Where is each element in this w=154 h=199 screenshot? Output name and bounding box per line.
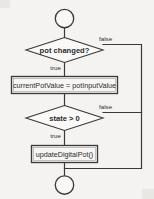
process-assign-pot-value-label: currentPotValue = potInputValue — [13, 81, 116, 90]
edge-label-pot-true: true — [50, 64, 61, 71]
flowchart-svg: pot changed? currentPotValue = potInputV… — [0, 0, 154, 199]
decision-pot-changed-label: pot changed? — [40, 46, 90, 55]
flowchart-canvas: pot changed? currentPotValue = potInputV… — [0, 0, 154, 199]
process-update-digital-pot-label: updateDigitalPot() — [36, 150, 94, 159]
edge-label-pot-false: false — [99, 35, 113, 42]
edge-label-state-false: false — [99, 103, 113, 110]
decision-state-greater-zero-label: state > 0 — [49, 114, 80, 123]
end-terminator — [55, 176, 73, 194]
edge-label-state-true: true — [50, 132, 61, 139]
start-terminator — [55, 9, 73, 27]
